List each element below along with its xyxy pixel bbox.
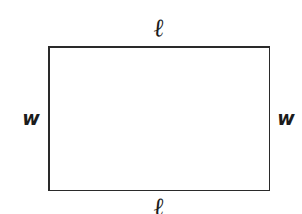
label-width-left: w — [22, 109, 40, 128]
label-length-bottom: ℓ — [153, 194, 165, 214]
rectangle-outline — [49, 47, 270, 191]
rectangle-shape — [0, 0, 302, 214]
label-width-right: w — [277, 109, 295, 128]
label-length-top: ℓ — [153, 15, 165, 41]
rectangle-diagram-canvas: ℓ ℓ w w — [0, 0, 302, 214]
